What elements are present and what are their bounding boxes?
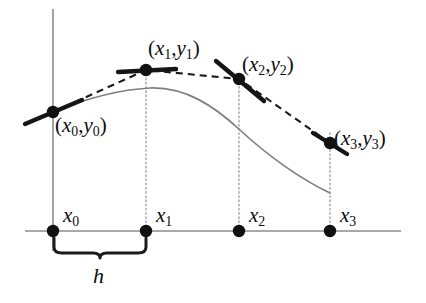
tick-label-x0: x0 (63, 205, 79, 229)
point-label-p0: (x0,y0) (55, 115, 107, 139)
tick-label-x3: x3 (340, 205, 356, 229)
axis-dot-x0 (47, 225, 59, 237)
tick-label-x2: x2 (249, 205, 265, 229)
step-size-brace (54, 238, 146, 258)
step-size-label: h (93, 265, 104, 287)
figure-canvas: (x0,y0) (x1,y1) (x2,y2) (x3,y3) x0 x1 x2… (0, 0, 426, 303)
point-label-p3: (x3,y3) (334, 128, 386, 152)
node-dot-p1 (140, 64, 152, 76)
point-label-p2: (x2,y2) (242, 54, 294, 78)
axis-dot-x3 (324, 225, 336, 237)
axis-dot-x1 (140, 225, 152, 237)
smooth-solution-curve (53, 88, 330, 193)
tick-label-x1: x1 (156, 205, 172, 229)
point-label-p1: (x1,y1) (148, 38, 200, 62)
axis-dot-x2 (233, 225, 245, 237)
